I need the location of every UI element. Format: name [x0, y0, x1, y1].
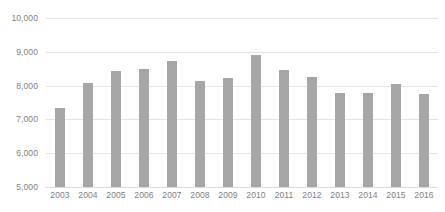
bar-slot — [382, 18, 410, 187]
y-axis: 10,0009,0008,0007,0006,0005,000 — [0, 0, 44, 212]
x-tick-label: 2014 — [354, 190, 382, 210]
bar[interactable] — [335, 93, 345, 187]
bar[interactable] — [391, 84, 401, 187]
x-tick-label: 2007 — [158, 190, 186, 210]
x-tick-label: 2003 — [46, 190, 74, 210]
bar[interactable] — [195, 81, 205, 187]
y-tick-label: 9,000 — [16, 47, 38, 57]
x-tick-label: 2004 — [74, 190, 102, 210]
y-tick-label: 10,000 — [11, 13, 38, 23]
y-tick-label: 8,000 — [16, 81, 38, 91]
bar[interactable] — [139, 69, 149, 187]
bar-slot — [46, 18, 74, 187]
bar-slot — [242, 18, 270, 187]
bar[interactable] — [83, 83, 93, 187]
x-tick-label: 2010 — [242, 190, 270, 210]
y-tick-label: 6,000 — [16, 148, 38, 158]
bar[interactable] — [279, 70, 289, 187]
bar-slot — [74, 18, 102, 187]
y-tick-label: 5,000 — [16, 182, 38, 192]
bar-slot — [102, 18, 130, 187]
bar-slot — [270, 18, 298, 187]
bar[interactable] — [363, 93, 373, 187]
bar[interactable] — [251, 55, 261, 187]
bar[interactable] — [307, 77, 317, 187]
y-tick-label: 7,000 — [16, 114, 38, 124]
bar-series — [46, 18, 438, 187]
bar-chart: 10,0009,0008,0007,0006,0005,000 20032004… — [0, 0, 445, 212]
plot-area — [46, 18, 438, 187]
bar[interactable] — [167, 61, 177, 187]
bar[interactable] — [55, 108, 65, 187]
bar[interactable] — [111, 71, 121, 187]
gridline — [46, 187, 438, 188]
bar-slot — [214, 18, 242, 187]
bar-slot — [186, 18, 214, 187]
x-tick-label: 2011 — [270, 190, 298, 210]
x-tick-label: 2013 — [326, 190, 354, 210]
bar-slot — [410, 18, 438, 187]
bar-slot — [354, 18, 382, 187]
bar-slot — [130, 18, 158, 187]
x-tick-label: 2015 — [382, 190, 410, 210]
x-axis: 2003200420052006200720082009201020112012… — [46, 190, 438, 210]
bar[interactable] — [223, 78, 233, 187]
x-tick-label: 2008 — [186, 190, 214, 210]
bar-slot — [298, 18, 326, 187]
x-tick-label: 2016 — [410, 190, 438, 210]
bar[interactable] — [419, 94, 429, 187]
bar-slot — [326, 18, 354, 187]
x-tick-label: 2009 — [214, 190, 242, 210]
x-tick-label: 2006 — [130, 190, 158, 210]
bar-slot — [158, 18, 186, 187]
x-tick-label: 2005 — [102, 190, 130, 210]
x-tick-label: 2012 — [298, 190, 326, 210]
